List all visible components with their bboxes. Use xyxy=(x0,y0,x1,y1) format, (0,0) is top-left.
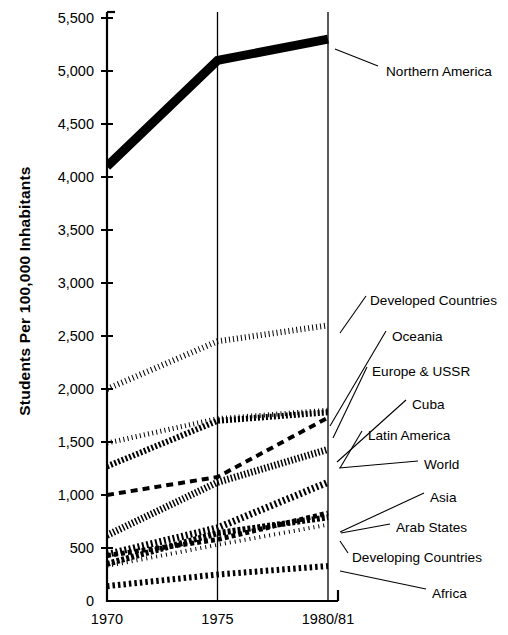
leader-line xyxy=(330,331,386,426)
y-tick-label: 3,500 xyxy=(58,222,94,238)
y-tick-label: 3,000 xyxy=(58,275,94,291)
leader-line xyxy=(340,571,426,589)
series-label-developed-countries: Developed Countries xyxy=(370,293,497,308)
series-label-world: World xyxy=(424,457,459,472)
grid-lines xyxy=(218,12,329,601)
line-chart-plot: 05001,0001,5002,0002,5003,0003,5004,0004… xyxy=(0,0,508,635)
y-tick-label: 0 xyxy=(86,593,94,609)
axis-frame xyxy=(107,12,338,601)
x-tick-label: 1970 xyxy=(91,611,123,627)
y-tick-label: 2,500 xyxy=(58,328,94,344)
y-tick-label: 500 xyxy=(70,540,94,556)
y-tick-label: 1,000 xyxy=(58,487,94,503)
leader-line xyxy=(339,461,418,468)
chart-figure: Students Per 100,000 Inhabitants 05001,0… xyxy=(0,0,508,635)
y-tick-label: 4,000 xyxy=(58,169,94,185)
x-axis-tick-labels: 197019751980/81 xyxy=(91,611,354,627)
series-label-africa: Africa xyxy=(432,586,467,601)
series-label-cuba: Cuba xyxy=(412,397,445,412)
leader-line xyxy=(340,296,366,333)
y-tick-label: 2,000 xyxy=(58,381,94,397)
series-label-northern-america: Northern America xyxy=(386,64,492,79)
y-axis-tick-labels: 05001,0001,5002,0002,5003,0003,5004,0004… xyxy=(58,10,94,609)
y-tick-label: 5,500 xyxy=(58,10,94,26)
leader-line xyxy=(340,541,348,553)
series-label-oceania: Oceania xyxy=(392,329,443,344)
y-tick-label: 4,500 xyxy=(58,116,94,132)
y-tick-label: 1,500 xyxy=(58,434,94,450)
x-tick-label: 1980/81 xyxy=(302,611,354,627)
series-label-arab-states: Arab States xyxy=(396,520,467,535)
series-label-asia: Asia xyxy=(430,490,457,505)
series-label-latin-america: Latin America xyxy=(368,428,451,443)
leader-lines-group xyxy=(330,49,426,589)
y-tick-label: 5,000 xyxy=(58,63,94,79)
leader-line xyxy=(340,431,362,468)
x-tick-label: 1975 xyxy=(201,611,233,627)
leader-line xyxy=(333,367,367,438)
series-label-europe-ussr: Europe & USSR xyxy=(372,364,470,379)
series-label-developing-countries: Developing Countries xyxy=(352,550,482,565)
series-labels-group: Northern AmericaDeveloped CountriesOcean… xyxy=(352,64,497,601)
leader-line xyxy=(335,49,378,66)
